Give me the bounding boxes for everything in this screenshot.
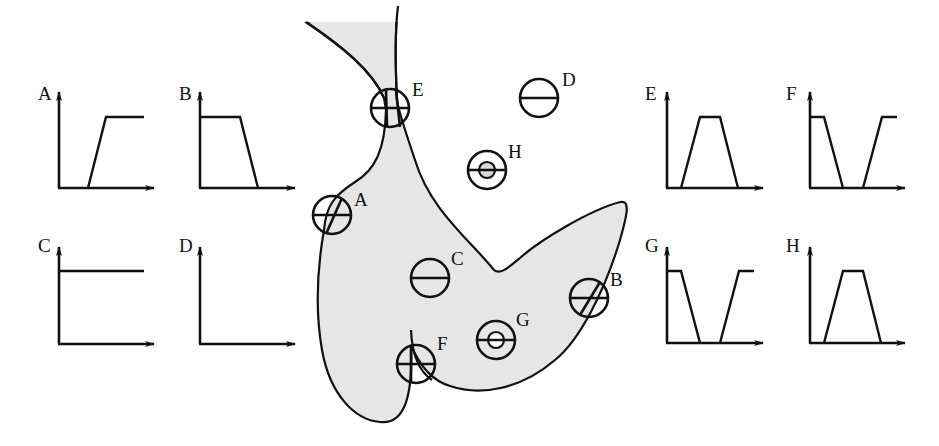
plot-label-B: B [179,83,192,104]
probe-D[interactable] [520,79,558,117]
probe-H[interactable] [468,151,506,189]
plot-C: C [38,235,154,344]
shaded-region [300,0,627,422]
probe-label-F: F [437,333,448,354]
probe-label-C: C [451,248,464,269]
probe-label-E: E [412,79,424,100]
plot-B: B [179,83,295,188]
plot-label-C: C [38,235,51,256]
plot-A: A [38,83,154,188]
plot-H: H [786,235,905,343]
plot-E: E [645,83,763,188]
probe-label-B: B [610,269,623,290]
plot-label-D: D [179,235,193,256]
probe-label-G: G [516,309,530,330]
probe-label-H: H [508,141,522,162]
plot-label-G: G [645,235,659,256]
plot-D: D [179,235,295,344]
plot-label-A: A [38,83,52,104]
probe-label-D: D [562,69,576,90]
plot-label-E: E [645,83,657,104]
diagram-canvas: E A D H C B G F [0,0,939,446]
plot-F: F [786,83,905,188]
plot-G: G [645,235,763,343]
plot-label-F: F [786,83,797,104]
plot-label-H: H [786,235,800,256]
probe-label-A: A [354,189,368,210]
